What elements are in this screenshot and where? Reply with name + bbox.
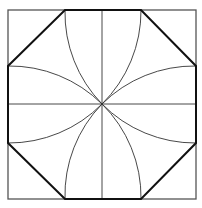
arc-right-top <box>102 66 196 104</box>
arc-top-left-a <box>65 10 102 104</box>
arc-top-right-a <box>102 10 141 104</box>
arc-bottom-left <box>65 104 102 199</box>
arc-bottom-right <box>102 104 141 199</box>
arc-left-bottom <box>8 104 102 143</box>
octagon-arc-diagram <box>0 0 202 208</box>
arc-left-top <box>8 66 102 104</box>
arc-right-bottom <box>102 104 196 143</box>
